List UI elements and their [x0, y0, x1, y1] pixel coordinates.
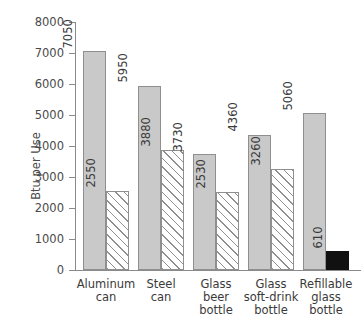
- y-axis-tick-label: 3000: [4, 177, 64, 178]
- bar-value-label: 5950: [117, 53, 129, 82]
- x-axis-category-label-line: bottle: [289, 304, 363, 317]
- x-axis-category-label: Refillableglassbottle: [289, 278, 363, 317]
- y-axis-tick: [69, 146, 75, 147]
- bar: 610: [326, 251, 349, 270]
- bar-group: 5060610: [303, 22, 349, 270]
- bar-value-label: 4360: [227, 103, 239, 132]
- y-axis-tick: [69, 84, 75, 85]
- y-axis-tick-label: 4000: [4, 146, 64, 147]
- bar-value-label: 3730: [172, 122, 184, 151]
- y-axis-tick: [69, 208, 75, 209]
- bar: 3880: [161, 150, 184, 270]
- y-axis-tick-label: 7000: [4, 53, 64, 54]
- y-axis-tick: [69, 177, 75, 178]
- y-axis-tick-label: 0: [4, 270, 64, 271]
- y-axis-tick: [69, 270, 75, 271]
- y-axis-tick-label: 1000: [4, 239, 64, 240]
- bar-value-label: 7050: [62, 19, 74, 48]
- y-axis-tick: [69, 115, 75, 116]
- y-axis-tick: [69, 53, 75, 54]
- bar: 3260: [271, 169, 294, 270]
- bar: 5950: [138, 86, 161, 270]
- bar-value-label: 3260: [250, 137, 262, 166]
- bar-value-label: 5060: [282, 81, 294, 110]
- chart-figure: Btu per Use 8000700060005000400030002000…: [0, 0, 364, 331]
- plot-area: 800070006000500040003000200010000 705025…: [75, 22, 361, 270]
- bar: 2530: [216, 192, 239, 270]
- y-axis-tick-label: 5000: [4, 115, 64, 116]
- y-axis-tick-label: 2000: [4, 208, 64, 209]
- y-axis-tick: [69, 239, 75, 240]
- bar-group: 37302530: [193, 22, 239, 270]
- bar-value-label: 610: [313, 226, 325, 248]
- bar-value-label: 2530: [195, 159, 207, 188]
- y-axis-tick-label: 6000: [4, 84, 64, 85]
- bar: 2550: [106, 191, 129, 270]
- bar-value-label: 3880: [140, 117, 152, 146]
- y-axis-tick-label: 8000: [4, 22, 64, 23]
- bar-value-label: 2550: [85, 159, 97, 188]
- x-axis-line: [75, 270, 361, 271]
- bar-group: 43603260: [248, 22, 294, 270]
